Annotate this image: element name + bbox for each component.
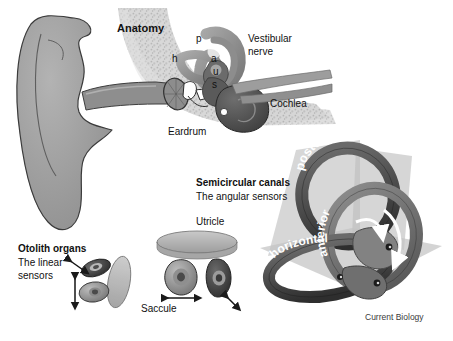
journal-credit: Current Biology (365, 313, 424, 323)
panel-subtitle-semicircular-canals: The angular sensors (196, 191, 287, 202)
panel-title-anatomy: Anatomy (117, 22, 164, 34)
label-utricle: Utricle (196, 216, 224, 227)
panel-title-otolith-organs: Otolith organs (18, 243, 86, 254)
label-vestibular-nerve-line2: nerve (248, 46, 273, 57)
saccule-label-s: s (212, 79, 217, 90)
pinna-outer-ear (17, 16, 112, 230)
utricle-saccule-illustration (157, 231, 238, 308)
panel-title-semicircular-canals: Semicircular canals (196, 177, 290, 188)
otolith-arrow-diagonal (69, 260, 86, 272)
panel-subtitle-otolith-line2: sensors (18, 270, 53, 281)
canal-label-p: p (196, 33, 202, 44)
label-eardrum: Eardrum (168, 126, 206, 137)
figure-canvas: posterior anterior horizontal Anatomy p … (0, 0, 453, 341)
label-saccule: Saccule (141, 303, 177, 314)
otolith-macula-upper (79, 256, 112, 280)
otolith-organs-illustration (69, 254, 134, 309)
utricle-label-u: u (213, 66, 219, 77)
saccule-arrow-diagonal (226, 296, 238, 308)
canal-label-a: a (211, 53, 217, 64)
otolith-macula-lower (78, 280, 110, 304)
label-cochlea: Cochlea (270, 98, 307, 109)
ear-anatomy-illustration: posterior anterior horizontal (0, 0, 453, 341)
canal-label-h: h (172, 53, 178, 64)
label-vestibular-nerve-line1: Vestibular (248, 33, 292, 44)
semicircular-canals-3d: posterior anterior horizontal (260, 126, 442, 306)
saccule-macula-left (165, 260, 197, 295)
panel-subtitle-otolith-line1: The linear (18, 257, 62, 268)
saccule-macula-right (206, 259, 231, 297)
